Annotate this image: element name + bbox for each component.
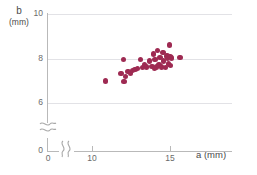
- data-point: [130, 68, 135, 73]
- gridline-y: [48, 14, 232, 15]
- x-axis-line-right: [74, 151, 232, 152]
- data-point: [118, 71, 123, 76]
- scatter-chart: b (mm) a (mm) 6810101500: [0, 0, 257, 175]
- data-point: [142, 62, 147, 67]
- data-point: [144, 64, 149, 69]
- y-axis-line-upper: [47, 13, 48, 123]
- data-point: [152, 66, 157, 71]
- y-axis-line-lower: [47, 138, 48, 152]
- x-tick-label: 10: [82, 154, 102, 163]
- data-point: [156, 62, 161, 67]
- gridline-y: [48, 59, 232, 60]
- y-tick-label: 6: [27, 98, 43, 107]
- data-point: [155, 48, 160, 53]
- data-point: [132, 67, 137, 72]
- y-axis-break-icon: [39, 119, 57, 135]
- x-tick-label: 15: [160, 154, 180, 163]
- data-point: [123, 74, 128, 79]
- y-axis-name: b: [9, 6, 29, 16]
- data-point: [103, 78, 108, 83]
- data-point: [125, 69, 130, 74]
- data-point: [160, 50, 165, 55]
- data-point: [166, 61, 171, 66]
- data-point: [128, 71, 133, 76]
- data-point: [140, 65, 145, 70]
- data-point: [163, 65, 168, 70]
- data-point: [154, 64, 159, 69]
- data-point: [167, 42, 172, 47]
- x-axis-break-icon: [58, 140, 74, 158]
- data-point: [121, 79, 126, 84]
- data-point: [159, 64, 164, 69]
- y-tick-label: 10: [27, 9, 43, 18]
- data-point: [168, 63, 173, 68]
- y-axis-unit: (mm): [9, 17, 29, 27]
- data-point: [151, 51, 156, 56]
- x-origin-label: 0: [38, 154, 58, 163]
- gridline-y: [48, 103, 232, 104]
- data-point: [149, 64, 154, 69]
- x-tick-mark: [170, 146, 171, 151]
- y-tick-label: 8: [27, 54, 43, 63]
- y-axis-title: b (mm): [9, 6, 29, 27]
- data-point: [135, 66, 140, 71]
- x-tick-mark: [92, 146, 93, 151]
